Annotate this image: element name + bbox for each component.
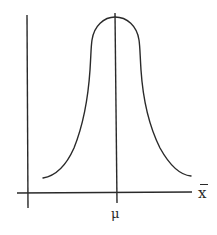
x-axis	[17, 192, 192, 193]
mean-line	[115, 13, 117, 203]
y-axis	[27, 15, 28, 208]
sampling-distribution-diagram: x μ	[0, 0, 217, 235]
x-axis-label: x	[198, 184, 208, 201]
diagram-canvas	[0, 0, 217, 235]
x-axis-label-text: x	[198, 184, 206, 202]
mean-label: μ	[111, 207, 119, 220]
